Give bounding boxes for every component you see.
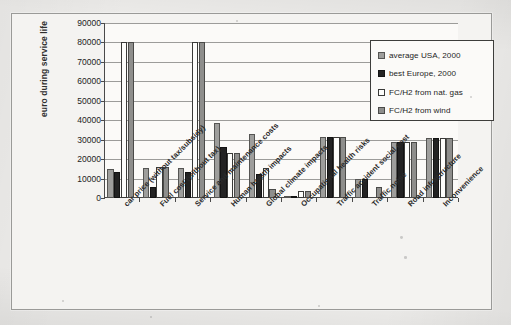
legend-label: best Europe, 2000 xyxy=(389,69,456,78)
y-axis-tick-label: 50000 xyxy=(77,96,101,106)
scanned-page: euro during service life 900008000070000… xyxy=(0,0,511,325)
bar xyxy=(150,187,156,198)
legend-item[interactable]: FC/H2 from wind xyxy=(378,102,493,121)
bar-group xyxy=(104,23,139,198)
chart-frame: euro during service life 900008000070000… xyxy=(11,13,492,310)
y-axis-tick-mark xyxy=(101,198,105,199)
legend-swatch-average-usa xyxy=(378,52,385,59)
bar xyxy=(121,42,127,198)
bar xyxy=(199,42,205,198)
bar xyxy=(404,142,410,198)
bar xyxy=(128,42,134,198)
bar xyxy=(291,196,297,198)
x-axis-labels: car price (without tax/subsidy)Fuel cost… xyxy=(104,200,464,325)
legend-label: average USA, 2000 xyxy=(389,51,461,60)
legend-label: FC/H2 from wind xyxy=(389,106,450,115)
y-axis-title: euro during service life xyxy=(39,0,53,139)
legend-item[interactable]: best Europe, 2000 xyxy=(378,65,493,84)
y-axis-tick-label: 60000 xyxy=(77,76,101,86)
legend-item[interactable]: FC/H2 from nat. gas xyxy=(378,83,493,102)
y-axis-tick-label: 40000 xyxy=(77,115,101,125)
legend-swatch-fch2-nat-gas xyxy=(378,89,385,96)
legend-swatch-fch2-wind xyxy=(378,107,385,114)
legend-swatch-best-europe xyxy=(378,70,385,77)
bar xyxy=(107,169,113,198)
y-axis-tick-label: 20000 xyxy=(77,154,101,164)
y-axis-tick-label: 90000 xyxy=(77,18,101,28)
bar xyxy=(114,172,120,198)
scan-speckle xyxy=(400,236,403,239)
y-axis-tick-label: 30000 xyxy=(77,135,101,145)
bar xyxy=(411,142,417,198)
legend-label: FC/H2 from nat. gas xyxy=(389,88,463,97)
y-axis-tick-label: 80000 xyxy=(77,37,101,47)
scan-speckle xyxy=(404,256,407,259)
scan-speckle xyxy=(236,20,238,22)
y-axis-tick-label: 70000 xyxy=(77,57,101,67)
chart-legend[interactable]: average USA, 2000 best Europe, 2000 FC/H… xyxy=(370,40,494,121)
legend-item[interactable]: average USA, 2000 xyxy=(378,46,493,65)
bar xyxy=(284,196,290,198)
y-axis-tick-label: 10000 xyxy=(77,174,101,184)
